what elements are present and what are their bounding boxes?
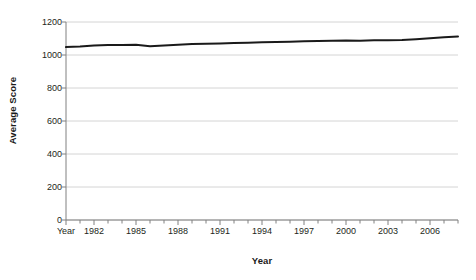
- data-series-line: [66, 37, 458, 48]
- line-chart: Average Score Year 020040060080010001200…: [0, 0, 476, 280]
- plot-area: [0, 0, 476, 280]
- y-tick-marks: [62, 22, 66, 220]
- gridlines: [66, 22, 458, 220]
- x-tick-marks: [66, 220, 458, 225]
- average-score-line: [66, 37, 458, 48]
